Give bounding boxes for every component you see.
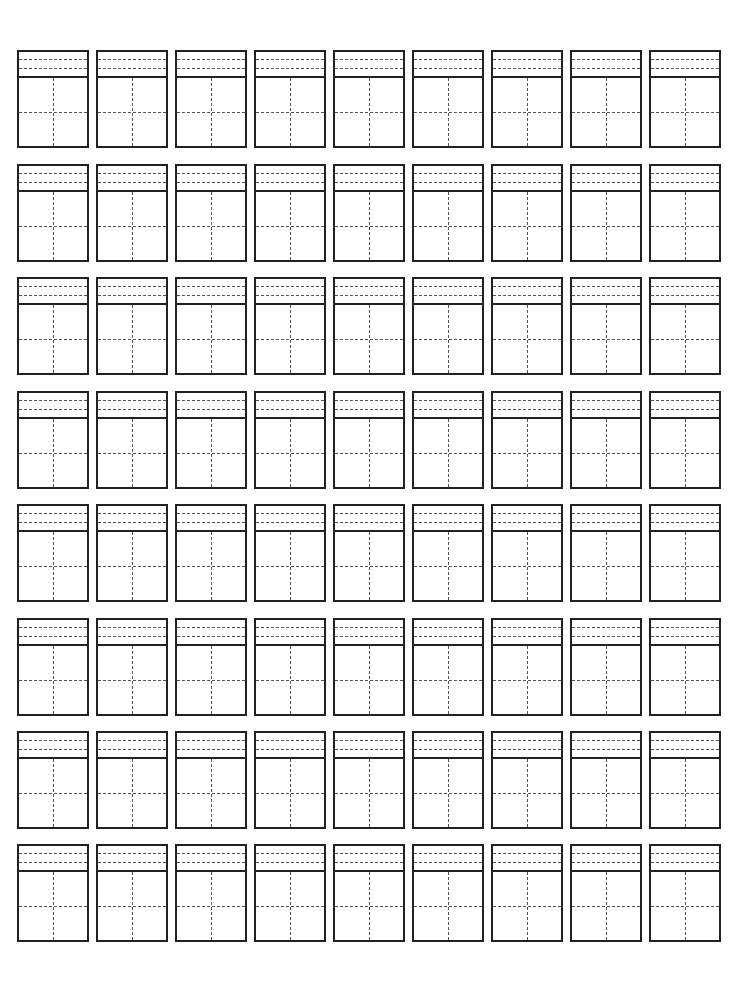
character-box — [651, 192, 719, 260]
character-box — [572, 305, 640, 373]
pinyin-guide-line — [493, 173, 561, 174]
character-box — [98, 872, 166, 940]
horizontal-guide-line — [19, 226, 87, 227]
character-box — [335, 872, 403, 940]
pinyin-guide-line — [335, 636, 403, 637]
character-box — [572, 419, 640, 487]
horizontal-guide-line — [493, 906, 561, 907]
character-box — [414, 78, 482, 146]
horizontal-guide-line — [98, 339, 166, 340]
pinyin-lines — [19, 733, 87, 759]
practice-cell — [333, 50, 405, 148]
pinyin-lines — [19, 620, 87, 646]
horizontal-guide-line — [177, 453, 245, 454]
pinyin-guide-line — [256, 59, 324, 60]
character-box — [572, 759, 640, 827]
horizontal-guide-line — [256, 906, 324, 907]
pinyin-guide-line — [651, 295, 719, 296]
practice-cell — [570, 50, 642, 148]
pinyin-guide-line — [651, 853, 719, 854]
practice-cell — [491, 844, 563, 942]
pinyin-lines — [19, 393, 87, 419]
pinyin-guide-line — [414, 862, 482, 863]
horizontal-guide-line — [177, 339, 245, 340]
horizontal-guide-line — [414, 566, 482, 567]
practice-cell — [649, 50, 721, 148]
pinyin-guide-line — [651, 862, 719, 863]
character-box — [256, 646, 324, 714]
pinyin-guide-line — [98, 68, 166, 69]
pinyin-lines — [414, 166, 482, 192]
horizontal-guide-line — [19, 906, 87, 907]
horizontal-guide-line — [98, 226, 166, 227]
pinyin-guide-line — [651, 409, 719, 410]
character-box — [651, 78, 719, 146]
practice-cell — [491, 164, 563, 262]
pinyin-lines — [651, 733, 719, 759]
horizontal-guide-line — [651, 680, 719, 681]
practice-cell — [254, 618, 326, 716]
pinyin-guide-line — [493, 749, 561, 750]
pinyin-lines — [98, 506, 166, 532]
pinyin-guide-line — [177, 400, 245, 401]
practice-cell — [570, 391, 642, 489]
pinyin-guide-line — [414, 182, 482, 183]
horizontal-guide-line — [414, 906, 482, 907]
horizontal-guide-line — [572, 339, 640, 340]
horizontal-guide-line — [98, 453, 166, 454]
character-box — [414, 532, 482, 600]
pinyin-lines — [256, 506, 324, 532]
character-box — [414, 759, 482, 827]
pinyin-guide-line — [414, 295, 482, 296]
practice-cell — [412, 164, 484, 262]
pinyin-guide-line — [19, 862, 87, 863]
practice-cell — [333, 844, 405, 942]
character-box — [177, 305, 245, 373]
character-box — [19, 532, 87, 600]
pinyin-guide-line — [19, 522, 87, 523]
practice-cell — [333, 504, 405, 602]
pinyin-guide-line — [572, 627, 640, 628]
pinyin-lines — [335, 846, 403, 872]
pinyin-guide-line — [572, 740, 640, 741]
practice-cell — [96, 731, 168, 829]
pinyin-guide-line — [256, 286, 324, 287]
character-box — [493, 78, 561, 146]
pinyin-guide-line — [572, 286, 640, 287]
pinyin-lines — [651, 52, 719, 78]
pinyin-guide-line — [493, 59, 561, 60]
pinyin-guide-line — [335, 400, 403, 401]
pinyin-lines — [256, 279, 324, 305]
pinyin-guide-line — [177, 862, 245, 863]
pinyin-lines — [335, 506, 403, 532]
practice-cell — [254, 731, 326, 829]
pinyin-guide-line — [414, 173, 482, 174]
pinyin-guide-line — [177, 853, 245, 854]
horizontal-guide-line — [19, 793, 87, 794]
pinyin-lines — [256, 733, 324, 759]
pinyin-guide-line — [651, 740, 719, 741]
practice-cell — [412, 731, 484, 829]
pinyin-guide-line — [98, 295, 166, 296]
practice-cell — [96, 504, 168, 602]
practice-grid — [0, 0, 756, 982]
pinyin-lines — [572, 166, 640, 192]
character-box — [335, 305, 403, 373]
practice-cell — [570, 844, 642, 942]
practice-cell — [96, 391, 168, 489]
practice-cell — [412, 618, 484, 716]
pinyin-lines — [572, 393, 640, 419]
character-box — [256, 872, 324, 940]
pinyin-guide-line — [19, 173, 87, 174]
pinyin-guide-line — [98, 862, 166, 863]
character-box — [572, 192, 640, 260]
pinyin-guide-line — [572, 295, 640, 296]
pinyin-lines — [98, 733, 166, 759]
pinyin-lines — [19, 52, 87, 78]
practice-cell — [649, 504, 721, 602]
practice-cell — [17, 504, 89, 602]
pinyin-guide-line — [572, 182, 640, 183]
pinyin-lines — [651, 279, 719, 305]
character-box — [414, 872, 482, 940]
character-box — [335, 646, 403, 714]
